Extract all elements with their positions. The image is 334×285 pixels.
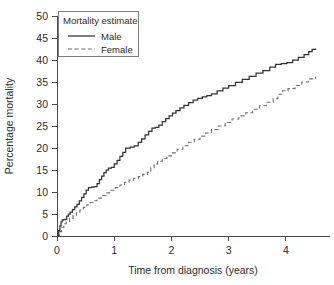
y-tick-label-50: 50 <box>36 10 48 22</box>
x-tick-label-1: 1 <box>111 244 117 256</box>
y-tick-label-5: 5 <box>42 208 48 220</box>
legend-label-female: Female <box>101 44 133 55</box>
legend-label-male: Male <box>101 31 122 42</box>
legend-title: Mortality estimate <box>63 15 137 26</box>
y-tick-label-30: 30 <box>36 98 48 110</box>
y-tick-label-15: 15 <box>36 164 48 176</box>
chart-legend: Mortality estimate Male Female <box>59 12 139 57</box>
y-tick-label-25: 25 <box>36 120 48 132</box>
y-tick-label-10: 10 <box>36 186 48 198</box>
mortality-line-chart: 05101520253035404550 01234 Time from dia… <box>0 0 334 285</box>
y-tick-label-35: 35 <box>36 76 48 88</box>
y-tick-label-20: 20 <box>36 142 48 154</box>
chart-figure: 05101520253035404550 01234 Time from dia… <box>0 0 334 285</box>
x-tick-label-2: 2 <box>168 244 174 256</box>
x-tick-label-4: 4 <box>283 244 289 256</box>
y-axis-title: Percentage mortality <box>3 77 15 174</box>
y-tick-label-40: 40 <box>36 54 48 66</box>
chart-background <box>0 0 334 285</box>
x-tick-label-3: 3 <box>226 244 232 256</box>
y-tick-label-0: 0 <box>42 230 48 242</box>
y-tick-label-45: 45 <box>36 32 48 44</box>
x-axis-title: Time from diagnosis (years) <box>128 264 258 276</box>
x-tick-label-0: 0 <box>54 244 60 256</box>
